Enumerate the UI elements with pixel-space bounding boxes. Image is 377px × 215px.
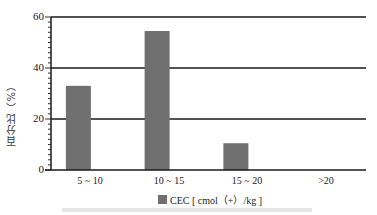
- y-tick-20: 20: [24, 112, 44, 124]
- y-tick-0: 0: [24, 163, 44, 175]
- y-tick-60: 60: [24, 10, 44, 22]
- x-tick-5-10: 5 ~ 10: [60, 175, 120, 186]
- figure-caption-faded: [62, 208, 312, 212]
- bar-chart: 百分比（%） 60 40 20 0 5 ~ 10 10 ~ 15 15 ~ 20…: [0, 0, 377, 215]
- x-tick-gt20: >20: [296, 175, 356, 186]
- bar-2: [223, 143, 248, 170]
- legend: CEC [ cmol（+）/kg ]: [158, 192, 262, 207]
- legend-label: CEC [ cmol（+）/kg ]: [170, 192, 262, 207]
- x-tick-15-20: 15 ~ 20: [217, 175, 277, 186]
- x-tick-10-15: 10 ~ 15: [139, 175, 199, 186]
- bar-0: [66, 86, 91, 170]
- y-axis-label: 百分比（%）: [4, 80, 20, 146]
- y-tick-40: 40: [24, 61, 44, 73]
- bar-1: [145, 31, 170, 170]
- legend-swatch: [158, 195, 167, 204]
